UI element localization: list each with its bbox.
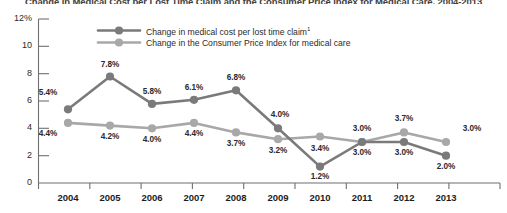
data-label-cpi-2010: 3.4% [300,144,340,153]
legend-swatch-cpi-medical-care [98,38,140,46]
data-label-cost-2011: 3.0% [342,148,382,157]
y-tick-label-2: 2 [2,150,32,160]
x-tick-label-2005: 2005 [86,192,134,203]
legend-footnote-marker-1: 1 [307,26,310,32]
data-label-cpi-2011: 3.0% [342,124,382,133]
legend-label-medical-cost-per-claim: Change in medical cost per lost time cla… [146,26,310,37]
x-tick-label-2012: 2012 [380,192,428,203]
x-tick-label-2011: 2011 [338,192,386,203]
legend-label-cpi-medical-care: Change in the Consumer Price Index for m… [146,38,350,48]
x-tick-label-2013: 2013 [422,192,470,203]
x-tick-label-2004: 2004 [44,192,92,203]
data-label-cost-2013: 2.0% [426,162,466,171]
data-label-cpi-2005: 4.2% [90,132,130,141]
data-label-cost-2004: 5.4% [28,88,68,97]
x-tick-label-2010: 2010 [296,192,344,203]
data-label-cost-2009: 4.0% [260,110,300,119]
data-label-cost-2007: 6.1% [174,83,214,92]
data-label-cost-2005: 7.8% [90,60,130,69]
x-tick-label-2008: 2008 [212,192,260,203]
x-tick-label-2006: 2006 [128,192,176,203]
x-tick-label-2009: 2009 [254,192,302,203]
y-tick-label-10: 10 [2,40,32,50]
data-label-cpi-2006: 4.0% [132,135,172,144]
chart-container: Change in Medical Cost per Lost Time Cla… [0,0,507,213]
data-label-cost-2012: 3.0% [384,148,424,157]
data-label-cpi-2004: 4.4% [28,129,68,138]
x-tick-label-2007: 2007 [170,192,218,203]
legend-label-text-1: Change in medical cost per lost time cla… [146,27,307,37]
y-tick-label-12: 12% [2,13,32,23]
data-label-cost-2010: 1.2% [300,172,340,181]
data-label-cpi-2013: 3.0% [452,124,492,133]
legend-label-text-2: Change in the Consumer Price Index for m… [146,38,350,48]
data-label-cpi-2008: 3.7% [216,139,256,148]
data-label-cpi-2009: 3.2% [258,146,298,155]
y-tick-label-0: 0 [2,177,32,187]
data-label-cost-2006: 5.8% [132,87,172,96]
x-axis-ticks [39,183,501,189]
data-label-cost-2008: 6.8% [216,73,256,82]
y-tick-label-8: 8 [2,68,32,78]
data-label-cpi-2007: 4.4% [174,129,214,138]
legend-swatch-medical-cost-per-claim [98,26,140,34]
data-label-cpi-2012: 3.7% [384,114,424,123]
